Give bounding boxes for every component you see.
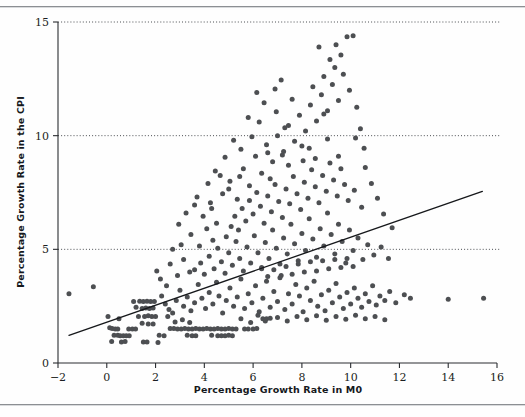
data-point xyxy=(109,339,114,344)
data-point xyxy=(91,284,96,289)
data-point xyxy=(240,206,245,211)
data-point xyxy=(284,264,289,269)
data-point xyxy=(359,305,364,310)
data-point xyxy=(337,295,342,300)
data-point xyxy=(265,193,270,198)
data-point xyxy=(199,296,204,301)
data-point xyxy=(203,306,208,311)
data-point xyxy=(285,251,290,256)
x-tick-label-4: 4 xyxy=(201,371,208,384)
data-point xyxy=(151,321,156,326)
data-point xyxy=(321,112,326,117)
data-point xyxy=(332,257,337,262)
data-point xyxy=(210,238,215,243)
data-point xyxy=(115,326,120,331)
data-point xyxy=(309,167,314,172)
data-point xyxy=(402,292,407,297)
data-point xyxy=(292,241,297,246)
data-point xyxy=(176,222,181,227)
data-point xyxy=(334,314,339,319)
data-point xyxy=(254,90,259,95)
data-point xyxy=(319,92,324,97)
data-point xyxy=(363,165,368,170)
y-tick-label-15: 15 xyxy=(35,16,49,29)
data-point xyxy=(207,290,212,295)
data-point xyxy=(291,174,296,179)
data-point xyxy=(238,276,243,281)
data-point xyxy=(312,279,317,284)
data-point xyxy=(286,291,291,296)
data-point xyxy=(315,304,320,309)
data-point xyxy=(158,276,163,281)
data-point xyxy=(127,333,132,338)
data-point xyxy=(369,181,374,186)
data-point xyxy=(209,333,214,338)
data-point xyxy=(204,226,209,231)
data-point xyxy=(220,191,225,196)
data-point xyxy=(234,239,239,244)
data-point xyxy=(195,195,200,200)
data-point xyxy=(288,222,293,227)
data-point xyxy=(302,270,307,275)
data-point xyxy=(358,126,363,131)
y-tick-label-0: 0 xyxy=(42,357,49,370)
data-point xyxy=(275,133,280,138)
data-point xyxy=(370,283,375,288)
data-point xyxy=(188,308,193,313)
data-point xyxy=(310,84,315,89)
data-point xyxy=(212,266,217,271)
data-point xyxy=(325,137,330,142)
data-point xyxy=(352,285,357,290)
data-point xyxy=(201,214,206,219)
data-point xyxy=(277,275,282,280)
data-point xyxy=(224,234,229,239)
data-point xyxy=(181,304,186,309)
data-point xyxy=(66,291,71,296)
data-point xyxy=(230,263,235,268)
data-point xyxy=(162,333,167,338)
data-point xyxy=(351,264,356,269)
data-point xyxy=(360,257,365,262)
data-point xyxy=(393,300,398,305)
data-point xyxy=(295,191,300,196)
data-point xyxy=(238,316,243,321)
data-point xyxy=(366,299,371,304)
data-point xyxy=(332,65,337,70)
data-point xyxy=(313,184,318,189)
data-point xyxy=(373,314,378,319)
data-point xyxy=(258,204,263,209)
data-point xyxy=(330,300,335,305)
data-point xyxy=(282,307,287,312)
data-point xyxy=(347,88,352,93)
data-point xyxy=(335,193,340,198)
data-point xyxy=(334,281,339,286)
data-point xyxy=(175,273,180,278)
data-point xyxy=(153,314,158,319)
data-point xyxy=(260,296,265,301)
data-point xyxy=(214,221,219,226)
data-point xyxy=(353,135,358,140)
data-point xyxy=(313,156,318,161)
data-point xyxy=(304,317,309,322)
data-point xyxy=(326,266,331,271)
x-tick-label-16: 16 xyxy=(490,371,504,384)
data-point xyxy=(227,285,232,290)
data-point xyxy=(316,45,321,50)
data-point xyxy=(248,260,253,265)
data-point xyxy=(253,283,258,288)
data-point xyxy=(179,242,184,247)
data-point xyxy=(338,52,343,57)
data-point xyxy=(304,285,309,290)
data-point xyxy=(299,143,304,148)
x-tick-label-14: 14 xyxy=(441,371,455,384)
data-point xyxy=(146,321,151,326)
data-point xyxy=(246,326,251,331)
data-point xyxy=(297,293,302,298)
data-point xyxy=(345,290,350,295)
data-point xyxy=(192,300,197,305)
data-point xyxy=(308,102,313,107)
data-point xyxy=(237,174,242,179)
data-point xyxy=(243,218,248,223)
data-point xyxy=(381,212,386,217)
data-point xyxy=(173,320,178,325)
